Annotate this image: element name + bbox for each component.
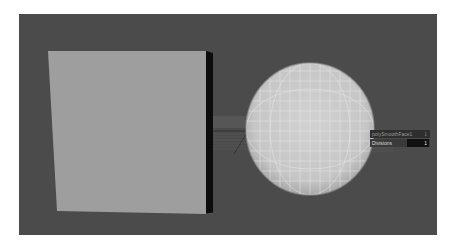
cube-object xyxy=(48,51,213,214)
3d-viewport[interactable]: polySmoothFace1 1 Divisions 1 xyxy=(19,14,437,235)
hud-attribute-label: Divisions xyxy=(372,140,392,146)
attribute-hud: polySmoothFace1 1 Divisions 1 xyxy=(370,130,430,148)
divisions-value-field[interactable]: 1 xyxy=(407,139,429,147)
cube-front-face xyxy=(48,51,206,214)
scene-render[interactable] xyxy=(19,14,437,235)
hud-attribute-row[interactable]: Divisions 1 xyxy=(370,139,430,147)
cube-side-face xyxy=(206,51,213,214)
hud-node-row[interactable]: polySmoothFace1 1 xyxy=(370,130,430,138)
hud-node-value: 1 xyxy=(422,130,429,138)
hud-node-name: polySmoothFace1 xyxy=(372,131,412,137)
sphere-object xyxy=(246,63,374,195)
